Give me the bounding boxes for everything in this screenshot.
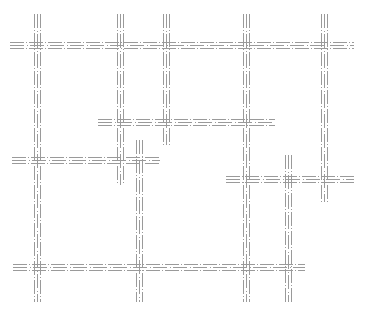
track-diagram [0, 0, 365, 315]
horizontal-track-h4 [226, 177, 354, 183]
horizontal-track-h2 [98, 120, 275, 126]
horizontal-tracks [10, 43, 354, 271]
vertical-track-v7 [286, 155, 292, 302]
vertical-track-v4 [244, 14, 250, 302]
vertical-track-v6 [137, 140, 143, 302]
vertical-track-v2 [118, 14, 124, 185]
horizontal-track-h1 [10, 43, 354, 49]
horizontal-track-h5 [13, 265, 305, 271]
